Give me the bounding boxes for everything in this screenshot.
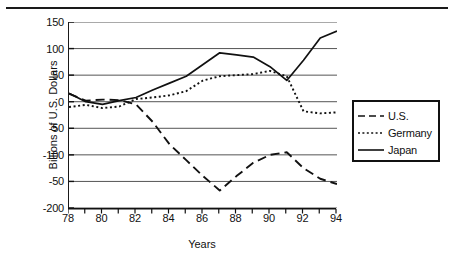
legend-key-dotted (358, 128, 384, 138)
series-line-japan (69, 31, 337, 104)
legend-item-japan[interactable]: Japan (358, 141, 438, 158)
legend-item-germany[interactable]: Germany (358, 124, 438, 141)
legend-item-us[interactable]: U.S. (358, 107, 438, 124)
legend-key-solid (358, 145, 384, 155)
top-rule-divider (6, 7, 448, 9)
x-tick-label: 92 (297, 212, 309, 224)
chart-figure: 150100500-50-100-50-200 Billions of U.S.… (0, 0, 454, 268)
plot-svg (69, 22, 337, 208)
series-line-us (69, 94, 337, 191)
x-tick-label: 94 (330, 212, 342, 224)
legend-key-dashed (358, 111, 384, 121)
legend-label-germany: Germany (388, 127, 432, 139)
y-axis-title: Billions of U.S. Dollars (47, 40, 59, 190)
x-tick-label: 80 (96, 212, 108, 224)
series-lines (69, 31, 337, 190)
x-tick-label: 88 (230, 212, 242, 224)
x-axis-tick-labels: 788082848688909294 (0, 212, 454, 230)
legend-label-us: U.S. (388, 110, 409, 122)
legend-label-japan: Japan (388, 144, 417, 156)
y-axis-title-wrapper: Billions of U.S. Dollars (22, 22, 36, 208)
y-tick-label: 150 (46, 16, 64, 28)
x-tick-label: 82 (129, 212, 141, 224)
x-tick-label: 90 (263, 212, 275, 224)
x-tick-label: 78 (62, 212, 74, 224)
x-tick-label: 84 (163, 212, 175, 224)
x-tick-label: 86 (196, 212, 208, 224)
chart-legend: U.S. Germany Japan (352, 100, 440, 162)
gridlines (69, 22, 337, 208)
x-axis-title: Years (68, 238, 336, 250)
series-line-germany (69, 71, 337, 114)
plot-area (68, 22, 336, 208)
